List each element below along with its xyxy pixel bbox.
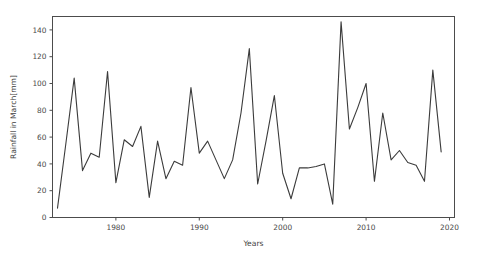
y-tick-label: 100 — [32, 79, 46, 88]
x-tick-label: 1980 — [106, 223, 125, 232]
y-tick-label: 20 — [37, 186, 47, 195]
y-tick-label: 140 — [32, 26, 46, 35]
x-tick-label: 2020 — [440, 223, 459, 232]
matplotlib-figure: 020406080100120140 19801990200020102020 … — [0, 0, 488, 255]
y-axis-title: Rainfall in March[mm] — [9, 75, 18, 159]
y-tick-label: 0 — [42, 213, 47, 222]
x-axis-title: Years — [242, 239, 263, 248]
x-tick-label: 2000 — [273, 223, 292, 232]
line-chart-canvas: 020406080100120140 19801990200020102020 … — [0, 0, 488, 255]
x-tick-label: 1990 — [190, 223, 209, 232]
y-tick-label: 40 — [37, 160, 47, 169]
y-tick-label: 80 — [37, 106, 47, 115]
y-tick-label: 60 — [37, 133, 47, 142]
y-tick-label: 120 — [32, 52, 46, 61]
x-tick-label: 2010 — [357, 223, 376, 232]
